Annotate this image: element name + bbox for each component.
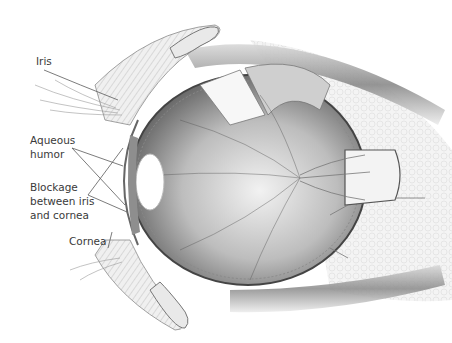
eye-illustration <box>0 0 452 343</box>
label-blockage: Blockage between iris and cornea <box>30 180 94 222</box>
optic-nerve <box>345 150 400 205</box>
lens <box>136 154 164 210</box>
label-iris: Iris <box>36 54 52 68</box>
label-cornea: Cornea <box>69 234 106 248</box>
label-aqueous-humor: Aqueous humor <box>30 133 75 161</box>
eye-diagram: Iris Aqueous humor Blockage between iris… <box>0 0 452 343</box>
